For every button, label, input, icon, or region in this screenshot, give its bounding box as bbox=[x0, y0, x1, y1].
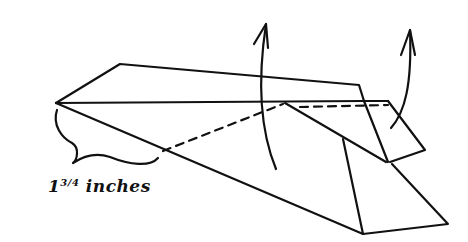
lower-body-outline bbox=[56, 103, 448, 234]
flap-fold-edge bbox=[364, 101, 388, 162]
measurement-unit: inches bbox=[86, 176, 151, 196]
dashed-fold-line-2 bbox=[300, 105, 388, 107]
center-line bbox=[56, 101, 388, 103]
measurement-whole: 1 bbox=[48, 176, 60, 196]
measurement-label: 13/4 inches bbox=[48, 176, 151, 196]
inner-diagonal bbox=[285, 103, 386, 162]
measurement-brace bbox=[56, 110, 158, 164]
folding-diagram bbox=[0, 0, 468, 242]
fold-up-arrow-flap bbox=[391, 30, 410, 128]
right-flap bbox=[388, 101, 425, 162]
lower-vertical-crease bbox=[343, 139, 363, 234]
upper-wing-outline bbox=[56, 64, 364, 103]
arrow-head-flap bbox=[401, 30, 415, 55]
measurement-fraction: 3/4 bbox=[60, 177, 79, 188]
arrow-head-wing bbox=[254, 24, 268, 48]
